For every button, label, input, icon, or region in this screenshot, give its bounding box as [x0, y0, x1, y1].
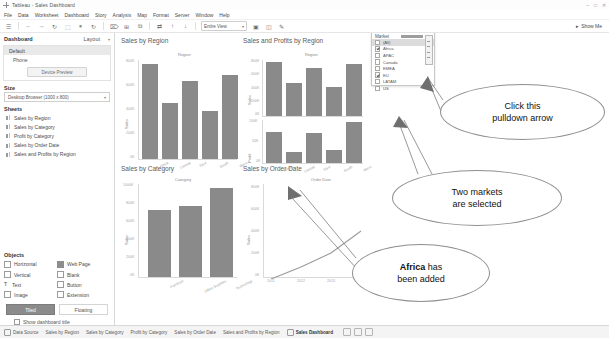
checkbox-icon[interactable] — [375, 53, 380, 58]
menu-item-map[interactable]: Map — [137, 12, 147, 18]
tiled-button[interactable]: Tiled — [6, 304, 55, 315]
object-text[interactable]: Text — [4, 280, 57, 290]
sort-descending-icon[interactable]: ↓ — [181, 22, 190, 31]
new-dashboard-icon[interactable] — [354, 328, 362, 336]
bar-office-supplies[interactable] — [179, 206, 202, 277]
tab-sales-by-region[interactable]: Sales by Region — [46, 330, 79, 335]
menu-item-data[interactable]: Data — [18, 12, 29, 18]
highlight-icon[interactable]: ✎ — [277, 22, 286, 31]
bar-west-2-profit[interactable] — [346, 122, 362, 163]
checkbox-icon[interactable] — [375, 66, 380, 71]
checkbox-icon[interactable] — [375, 79, 380, 84]
filter-option-us[interactable]: US — [372, 85, 434, 92]
object-button[interactable]: Button — [57, 280, 110, 290]
tab-data-source[interactable]: Data Source — [4, 329, 39, 336]
object-web-page[interactable]: Web Page — [57, 259, 110, 269]
close-icon[interactable]: ✕ — [602, 2, 606, 8]
line-series-sales-by-order-date[interactable] — [263, 183, 365, 279]
checkbox-icon[interactable] — [14, 319, 20, 325]
bar-west-2-sales[interactable] — [346, 64, 362, 116]
clear-sheet-icon[interactable]: ⌦ — [109, 22, 118, 31]
refresh-icon[interactable]: ↻ — [89, 22, 98, 31]
bar-east-2-profit[interactable] — [306, 133, 322, 163]
chevron-down-icon[interactable]: ▾ — [108, 37, 110, 42]
device-layout-icon[interactable]: ◫ — [264, 22, 273, 31]
bar-east-2-sales[interactable] — [306, 68, 322, 116]
menu-item-help[interactable]: Help — [219, 12, 229, 18]
new-worksheet-icon[interactable]: ⊞ — [122, 22, 131, 31]
duplicate-sheet-icon[interactable]: ⧉ — [135, 22, 144, 31]
show-dashboard-title-row[interactable]: Show dashboard title — [0, 317, 114, 325]
sheet-item-profit-by-category[interactable]: Profit by Category — [0, 131, 114, 140]
object-vertical[interactable]: Vertical — [4, 269, 57, 279]
menu-item-window[interactable]: Window — [196, 12, 214, 18]
back-arrow-icon[interactable]: ← — [24, 22, 33, 31]
bar-furniture[interactable] — [148, 210, 171, 277]
bar-central-2-sales[interactable] — [286, 83, 302, 116]
new-data-source-icon[interactable]: ⬚ — [63, 22, 72, 31]
filter-option-eu[interactable]: EU — [372, 72, 434, 79]
menu-item-worksheet[interactable]: Worksheet — [35, 12, 59, 18]
bar-west-1[interactable] — [222, 75, 238, 159]
menu-item-analysis[interactable]: Analysis — [113, 12, 132, 18]
tab-sales-by-category[interactable]: Sales by Category — [86, 330, 124, 335]
fit-view-dropdown[interactable]: Entire View ▾ — [201, 21, 247, 31]
bar-south-2-sales[interactable] — [326, 87, 342, 116]
checkbox-checked-icon[interactable] — [375, 72, 380, 77]
tab-sales-and-profits-by-region[interactable]: Sales and Profits by Region — [223, 330, 280, 335]
menu-item-server[interactable]: Server — [175, 12, 190, 18]
object-horizontal[interactable]: Horizontal — [4, 259, 57, 269]
device-item-default[interactable]: Default — [4, 46, 110, 55]
bar-africa-2-sales[interactable] — [266, 62, 282, 116]
swap-rows-columns-icon[interactable]: ⇄ — [155, 22, 164, 31]
show-me-button[interactable]: ▸ Show Me — [576, 23, 605, 29]
sheet-item-sales-by-category[interactable]: Sales by Category — [0, 122, 114, 131]
pulldown-arrow-icon[interactable] — [425, 35, 433, 65]
checkbox-checked-icon[interactable] — [375, 46, 380, 51]
bar-africa-1[interactable] — [142, 64, 158, 159]
sheet-item-sales-by-region[interactable]: Sales by Region — [0, 113, 114, 122]
tableau-home-icon[interactable]: ☰ — [4, 22, 13, 31]
new-worksheet-icon[interactable] — [343, 328, 351, 336]
dashboard-tab[interactable]: Dashboard — [4, 36, 33, 42]
object-image[interactable]: Image — [4, 290, 57, 300]
tab-sales-by-order-date[interactable]: Sales by Order Date — [174, 330, 216, 335]
layout-tab[interactable]: Layout — [83, 36, 110, 42]
bar-central-1[interactable] — [162, 103, 178, 159]
menu-item-format[interactable]: Format — [153, 12, 169, 18]
sheet-item-sales-and-profits-by-region[interactable]: Sales and Profits by Region — [0, 150, 114, 159]
tab-profit-by-category[interactable]: Profit by Category — [131, 330, 168, 335]
bar-south-2-profit[interactable] — [326, 150, 342, 163]
filter-option-emea[interactable]: EMEA — [372, 65, 434, 72]
bar-south-1[interactable] — [202, 111, 218, 159]
object-blank[interactable]: Blank — [57, 269, 110, 279]
minimize-icon[interactable]: – — [586, 2, 589, 8]
device-preview-button[interactable]: Device Preview — [27, 67, 87, 77]
menu-item-dashboard[interactable]: Dashboard — [64, 12, 88, 18]
bar-africa-2-profit[interactable] — [266, 132, 282, 163]
floating-button[interactable]: Floating — [59, 304, 108, 315]
menu-item-story[interactable]: Story — [95, 12, 107, 18]
checkbox-icon[interactable] — [375, 59, 380, 64]
checkbox-icon[interactable] — [375, 40, 380, 45]
drag-handle-icon[interactable] — [401, 35, 423, 39]
bar-central-2-profit[interactable] — [286, 152, 302, 163]
object-extension[interactable]: Extension — [57, 290, 110, 300]
checkbox-icon[interactable] — [375, 86, 380, 91]
maximize-icon[interactable]: □ — [594, 2, 597, 8]
bar-east-1[interactable] — [182, 81, 198, 159]
menu-item-file[interactable]: File — [4, 12, 12, 18]
size-dropdown[interactable]: Desktop Browser (1000 x 800) ▾ — [4, 92, 110, 102]
market-filter-card[interactable]: Market (All) Africa APAC — [371, 33, 435, 86]
presentation-mode-icon[interactable]: ▣ — [251, 22, 260, 31]
pause-auto-updates-icon[interactable]: ⏸ — [76, 22, 85, 31]
window-controls[interactable]: – □ ✕ — [586, 2, 606, 8]
filter-option-latam[interactable]: LATAM — [372, 78, 434, 85]
new-story-icon[interactable] — [365, 328, 373, 336]
device-item-phone[interactable]: Phone — [4, 55, 110, 64]
sort-ascending-icon[interactable]: ↑ — [168, 22, 177, 31]
sheet-item-sales-by-order-date[interactable]: Sales by Order Date — [0, 141, 114, 150]
bar-technology[interactable] — [210, 188, 233, 277]
tab-sales-dashboard[interactable]: Sales Dashboard — [287, 329, 333, 336]
save-icon[interactable]: ↻ — [50, 22, 59, 31]
